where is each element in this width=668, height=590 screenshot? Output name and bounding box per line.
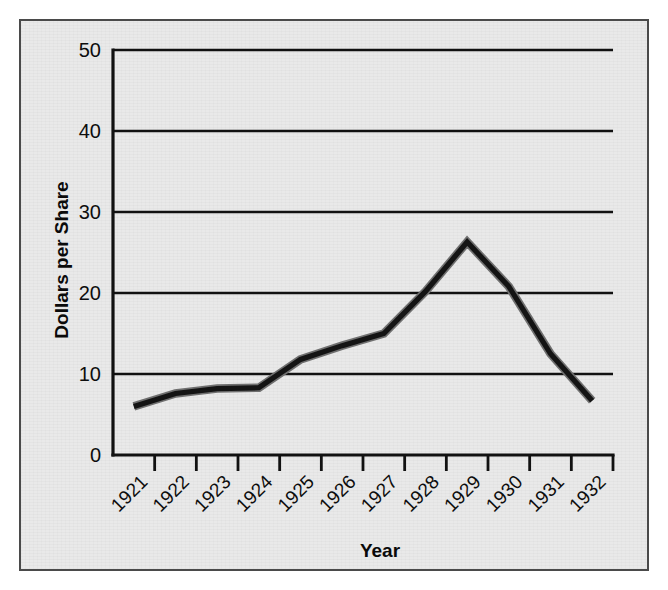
x-tick-label: 1925 (273, 471, 318, 516)
x-tick-label: 1923 (190, 471, 235, 516)
y-tick-label: 20 (79, 282, 101, 304)
x-tick-label: 1929 (440, 471, 485, 516)
x-tick-labels-group: 1921192219231924192519261927192819291930… (107, 471, 610, 516)
x-tick-label: 1926 (315, 471, 360, 516)
y-tick-labels-group: 01020304050 (79, 39, 101, 466)
series-line-shadow (134, 242, 592, 406)
y-tick-label: 10 (79, 363, 101, 385)
y-tick-label: 30 (79, 201, 101, 223)
x-tick-marks-group (155, 455, 613, 471)
x-tick-label: 1921 (107, 471, 152, 516)
y-axis-title: Dollars per Share (51, 181, 72, 338)
x-tick-label: 1927 (357, 471, 402, 516)
x-tick-label: 1931 (523, 471, 568, 516)
x-axis-title: Year (360, 540, 401, 561)
x-tick-label: 1932 (565, 471, 610, 516)
y-tick-label: 40 (79, 120, 101, 142)
x-tick-label: 1930 (482, 471, 527, 516)
data-series-dollars-per-share (134, 242, 592, 406)
y-tick-label: 0 (90, 444, 101, 466)
y-tick-label: 50 (79, 39, 101, 61)
x-tick-label: 1922 (148, 471, 193, 516)
line-chart: 01020304050 1921192219231924192519261927… (0, 0, 668, 590)
figure-container: 01020304050 1921192219231924192519261927… (0, 0, 668, 590)
gridlines-group (113, 50, 613, 374)
x-tick-label: 1928 (398, 471, 443, 516)
x-tick-label: 1924 (232, 471, 277, 516)
series-line (134, 242, 592, 406)
